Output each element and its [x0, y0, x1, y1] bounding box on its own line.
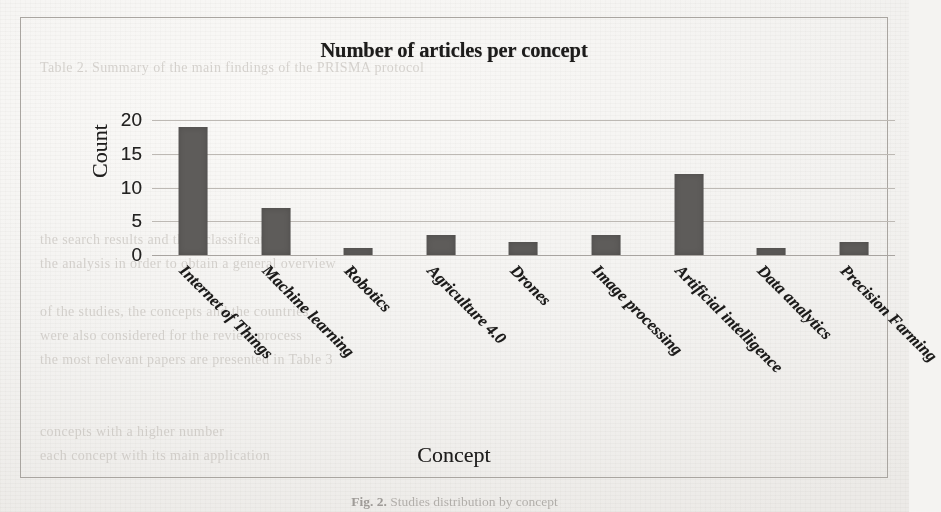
figure-caption-text: Studies distribution by concept [390, 494, 558, 509]
bar[interactable] [674, 174, 703, 255]
bar-slot[interactable] [730, 120, 813, 255]
chart-frame: Number of articles per concept Count 051… [20, 17, 888, 478]
bar-slot[interactable] [317, 120, 400, 255]
bar[interactable] [426, 235, 455, 255]
bar[interactable] [179, 127, 208, 255]
y-axis-tick: 20 [98, 109, 142, 131]
bar-slot[interactable] [152, 120, 235, 255]
gridline [152, 255, 895, 256]
x-axis-tick-robotics: Robotics [340, 261, 396, 317]
x-axis-tick-precision-farming: Precision Farming [836, 261, 941, 366]
chart-title: Number of articles per concept [21, 39, 887, 62]
y-axis-tick: 10 [98, 177, 142, 199]
bar-slot[interactable] [235, 120, 318, 255]
bar[interactable] [757, 248, 786, 255]
bar-slot[interactable] [482, 120, 565, 255]
bar[interactable] [344, 248, 373, 255]
figure-caption-prefix: Fig. 2. [351, 494, 387, 509]
figure-caption: Fig. 2. Studies distribution by concept [0, 494, 909, 510]
y-axis-tick: 15 [98, 143, 142, 165]
y-axis-tick: 5 [98, 210, 142, 232]
x-axis-title: Concept [21, 442, 887, 468]
bar[interactable] [839, 242, 868, 256]
x-axis-tick-labels: Internet of ThingsMachine learningRoboti… [152, 261, 895, 421]
bar-slot[interactable] [565, 120, 648, 255]
bar-slot[interactable] [400, 120, 483, 255]
bar-slot[interactable] [647, 120, 730, 255]
y-axis-tick: 0 [98, 244, 142, 266]
bar-series [152, 120, 895, 255]
x-axis-tick-agriculture-4-0: Agriculture 4.0 [423, 261, 510, 348]
x-axis-tick-data-analytics: Data analytics [753, 261, 836, 344]
bar[interactable] [509, 242, 538, 256]
bar-slot[interactable] [812, 120, 895, 255]
bar[interactable] [261, 208, 290, 255]
x-axis-tick-drones: Drones [505, 261, 554, 310]
bar[interactable] [592, 235, 621, 255]
